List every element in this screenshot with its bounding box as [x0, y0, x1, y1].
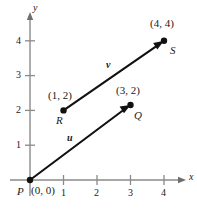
point-coord-R: (1, 2) — [48, 90, 72, 101]
point-dot-P — [27, 177, 33, 183]
point-label-R: R — [56, 115, 63, 126]
x-axis-label: x — [189, 172, 193, 182]
x-tick-label-1: 1 — [61, 188, 66, 198]
vector-diagram-figure: y x 1 2 3 4 1 2 3 4 P (0, 0) (3, 2) Q (1… — [0, 0, 197, 210]
vector-u-shaft — [30, 109, 126, 181]
vector-v-shaft — [64, 44, 160, 110]
point-dot-S — [161, 38, 167, 44]
y-tick-label-4: 4 — [16, 36, 21, 46]
x-tick-label-4: 4 — [161, 188, 166, 198]
x-axis-arrowhead — [178, 177, 186, 183]
y-tick-label-1: 1 — [16, 140, 21, 150]
y-axis-arrowhead — [27, 12, 33, 20]
point-coord-P: (0, 0) — [31, 185, 55, 196]
point-label-Q: Q — [134, 110, 142, 121]
plot-canvas — [0, 0, 197, 210]
vector-label-v: v — [106, 60, 110, 70]
point-coord-Q: (3, 2) — [116, 85, 140, 96]
x-tick-label-3: 3 — [128, 188, 133, 198]
point-dot-R — [60, 107, 66, 113]
vector-label-u: u — [67, 133, 73, 143]
y-axis-label: y — [33, 3, 37, 13]
point-label-S: S — [170, 45, 176, 56]
point-dot-Q — [127, 102, 133, 108]
y-tick-label-3: 3 — [16, 70, 21, 80]
point-coord-S: (4, 4) — [150, 18, 174, 29]
y-tick-label-2: 2 — [16, 105, 21, 115]
point-label-P: P — [17, 186, 24, 197]
x-tick-label-2: 2 — [94, 188, 99, 198]
